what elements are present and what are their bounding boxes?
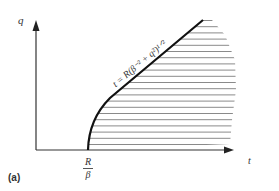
x-tick-fraction: R β <box>82 157 94 180</box>
x-tick-numerator: R <box>85 156 91 167</box>
diagram-figure: q t R β (a) t = R(β⁻² + q²)¹ᐟ² <box>0 0 279 191</box>
q-axis-arrow-icon <box>33 20 40 31</box>
panel-label: (a) <box>8 172 20 183</box>
x-axis-label: t <box>248 155 251 166</box>
diagram-canvas <box>0 0 279 191</box>
y-axis-label: q <box>18 14 24 26</box>
t-axis-arrow-icon <box>224 147 234 154</box>
x-tick-denominator: β <box>86 169 91 180</box>
